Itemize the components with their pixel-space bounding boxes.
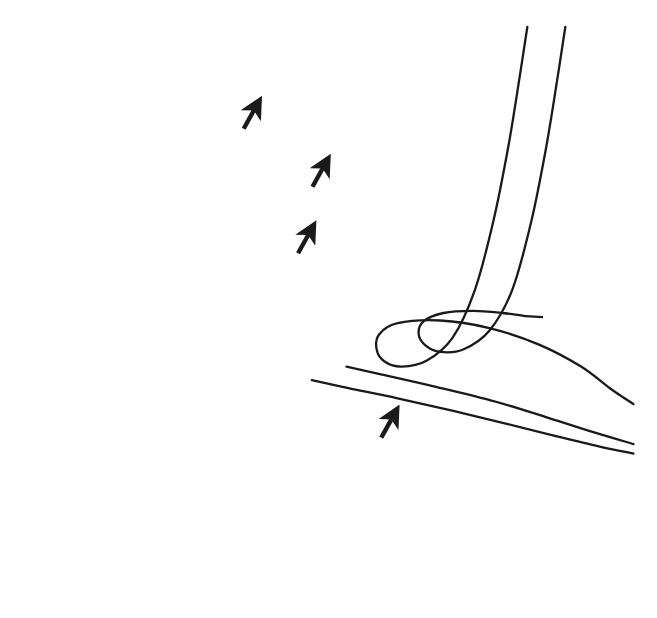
contour-2.5 — [376, 27, 633, 404]
contour-curves — [312, 27, 634, 454]
annotation-arrow-b — [298, 226, 313, 253]
annotation-arrow-d — [244, 102, 259, 129]
plot-canvas — [0, 0, 657, 618]
contour-2-shelf — [347, 367, 634, 444]
contour-1.5-shelf — [312, 380, 634, 453]
annotation-arrows — [244, 102, 397, 438]
figure-contour-plot — [0, 0, 657, 618]
leader-line-3 — [525, 316, 543, 317]
annotation-arrow-c — [312, 160, 327, 187]
contour-3 — [419, 27, 566, 352]
annotation-arrow-a — [381, 411, 396, 438]
